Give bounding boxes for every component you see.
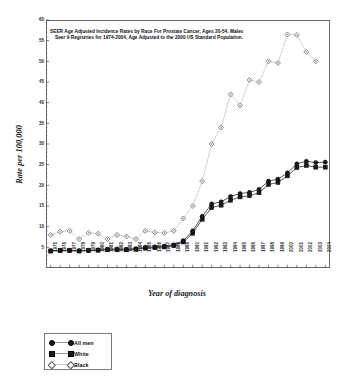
x-axis-tick-label: 1982 [119,242,124,272]
square-marker-icon [68,351,74,357]
y-axis-tick-label: 45 [26,79,44,84]
x-axis-tick-label: 1991 [204,242,209,272]
x-axis-tick-label: 1983 [128,242,133,272]
x-axis-tick-label: 1980 [100,242,105,272]
chart-svg [0,0,354,383]
y-axis-tick-label: 30 [26,141,44,146]
x-axis-tick-label: 2002 [308,242,313,272]
chart-title-block: SEER Age Adjusted Incidence Rates by Rac… [50,29,310,42]
x-axis-tick-label: 1992 [214,242,219,272]
legend-item-all-men: All men [48,337,111,348]
x-axis-tick-label: 1978 [81,242,86,272]
y-axis-tick-label: 55 [26,38,44,43]
x-axis-tick-label: 2003 [318,242,323,272]
chart-title-line1: SEER Age Adjusted Incidence Rates by Rac… [50,29,243,34]
y-axis-tick-label: 60 [26,17,44,22]
x-axis-tick-label: 2000 [289,242,294,272]
x-axis-tick-label: 1990 [195,242,200,272]
x-axis-tick-label: 1981 [109,242,114,272]
chart-title-line2: Seer 9 Registries for 1974-2004, Age Adj… [50,35,310,41]
legend-label-all-men: All men [74,340,93,346]
y-axis-tick-label: 25 [26,162,44,167]
y-axis-tick-label: 20 [26,183,44,188]
x-axis-tick-label: 1984 [138,242,143,272]
legend-swatch-white [48,349,74,358]
y-axis-title: Rate per 100,000 [15,100,24,210]
y-axis-tick-labels: 51015202530354045505560 [22,0,44,383]
legend-item-white: White [48,348,111,359]
x-axis-tick-label: 1985 [147,242,152,272]
y-axis-tick-label: 50 [26,59,44,64]
x-axis-title: Year of diagnosis [0,289,354,298]
chart-legend: All men White Black [44,333,112,370]
legend-label-black: Black [74,362,88,368]
x-axis-tick-label: 1987 [166,242,171,272]
circle-marker-icon [68,340,74,346]
legend-item-black: Black [48,359,111,370]
y-axis-tick-label: 15 [26,203,44,208]
x-axis-tick-label: 1977 [72,242,77,272]
y-axis-tick-label: 10 [26,224,44,229]
x-axis-tick-label: 2004 [327,242,332,272]
x-axis-tick-label: 1996 [251,242,256,272]
y-axis-tick-label: 5 [26,245,44,250]
x-axis-tick-label: 1989 [185,242,190,272]
y-axis-tick-label: 35 [26,121,44,126]
diamond-marker-icon [67,361,75,369]
x-axis-tick-label: 1975 [53,242,58,272]
x-axis-tick-label: 1993 [223,242,228,272]
legend-swatch-black [48,360,74,369]
x-axis-tick-label: 1986 [157,242,162,272]
circle-marker-icon [49,340,55,346]
square-marker-icon [49,351,55,357]
y-axis-tick-label: 40 [26,100,44,105]
x-axis-tick-label: 1979 [91,242,96,272]
x-axis-tick-label: 1998 [270,242,275,272]
legend-swatch-all-men [48,338,74,347]
legend-label-white: White [74,351,89,357]
chart-page: 51015202530354045505560 Rate per 100,000… [0,0,354,383]
diamond-marker-icon [48,361,56,369]
x-axis-tick-label: 1997 [261,242,266,272]
x-axis-tick-label: 1999 [280,242,285,272]
x-axis-tick-label: 1995 [242,242,247,272]
x-axis-tick-label: 1976 [62,242,67,272]
x-axis-tick-label: 2001 [299,242,304,272]
x-axis-tick-label: 1994 [233,242,238,272]
x-axis-tick-label: 1988 [176,242,181,272]
